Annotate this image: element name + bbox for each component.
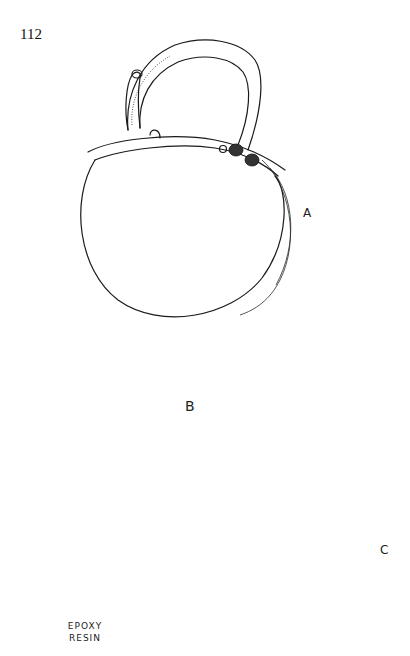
epoxy-caption-line1: EPOXY bbox=[55, 620, 115, 632]
illustration-canvas bbox=[0, 0, 410, 656]
figure-a-label: A bbox=[303, 206, 311, 220]
epoxy-resin-caption: EPOXY RESIN bbox=[55, 620, 115, 644]
epoxy-caption-line2: RESIN bbox=[55, 632, 115, 644]
figure-c-label: C bbox=[380, 543, 388, 557]
figure-b-label: B bbox=[185, 398, 195, 414]
figure-a-locket bbox=[81, 40, 291, 317]
